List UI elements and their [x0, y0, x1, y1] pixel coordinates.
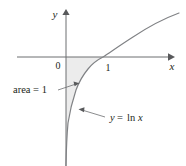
- curve-leader-arrowhead: [79, 107, 85, 112]
- x-axis-label: x: [169, 60, 175, 72]
- figure-container: y x 0 1 area = 1 y = ln x: [0, 0, 186, 166]
- y-axis-label: y: [52, 8, 58, 20]
- curve-annotation-label: y = ln x: [109, 112, 143, 123]
- ln-x-area-figure: y x 0 1 area = 1 y = ln x: [0, 0, 186, 166]
- ln-curve: [66, 13, 179, 166]
- y-axis-arrowhead: [62, 9, 69, 15]
- origin-tick-label: 0: [56, 60, 61, 71]
- curve-annotation-argument: x: [137, 112, 143, 123]
- area-annotation-label: area = 1: [13, 84, 47, 95]
- curve-leader-line: [82, 110, 105, 117]
- curve-annotation-function: ln: [127, 112, 136, 123]
- curve-annotation-lhs: y: [109, 112, 115, 123]
- x-tick-label-one: 1: [106, 62, 111, 73]
- curve-annotation-equals: =: [117, 112, 123, 123]
